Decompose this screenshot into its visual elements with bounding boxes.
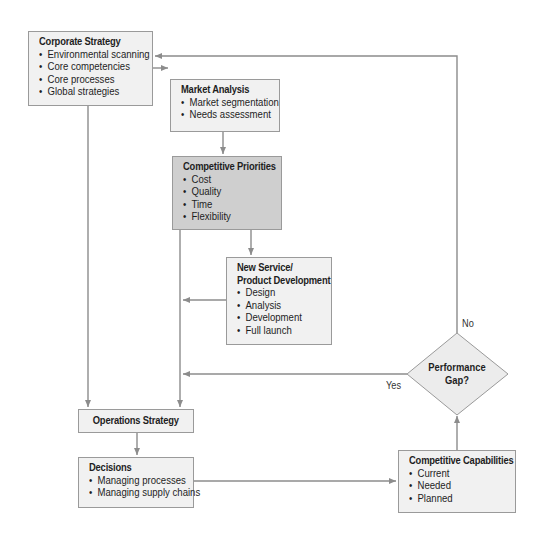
list-item: Global strategies	[39, 86, 139, 99]
list-item: Development	[237, 312, 319, 325]
new-service-box: New Service/ Product Development Design …	[226, 257, 332, 345]
list-item: Analysis	[237, 300, 319, 313]
competitive-capabilities-box: Competitive Capabilities Current Needed …	[398, 450, 516, 513]
list-item: Cost	[183, 174, 269, 187]
list-item: Quality	[183, 186, 269, 199]
list-item: Current	[409, 468, 502, 481]
corporate-strategy-box: Corporate Strategy Environmental scannin…	[28, 31, 153, 106]
new-service-title-line1: New Service/	[237, 262, 317, 275]
list-item: Environmental scanning	[39, 49, 139, 62]
competitive-priorities-title: Competitive Priorities	[183, 161, 267, 174]
competitive-priorities-list: Cost Quality Time Flexibility	[183, 174, 274, 224]
list-item: Managing supply chains	[89, 487, 180, 500]
list-item: Full launch	[237, 325, 319, 338]
decisions-title: Decisions	[89, 462, 178, 475]
performance-gap-line1: Performance	[420, 361, 494, 374]
corporate-strategy-list: Environmental scanning Core competencies…	[39, 49, 145, 99]
no-label: No	[462, 318, 474, 329]
decisions-list: Managing processes Managing supply chain…	[89, 475, 186, 500]
market-analysis-list: Market segmentation Needs assessment	[181, 97, 272, 122]
decisions-box: Decisions Managing processes Managing su…	[78, 457, 194, 508]
competitive-capabilities-list: Current Needed Planned	[409, 468, 508, 506]
market-analysis-title: Market Analysis	[181, 84, 265, 97]
new-service-title-line2: Product Development	[237, 275, 317, 288]
list-item: Flexibility	[183, 211, 269, 224]
list-item: Time	[183, 199, 269, 212]
performance-gap-line2: Gap?	[420, 374, 494, 387]
market-analysis-box: Market Analysis Market segmentation Need…	[170, 79, 280, 132]
competitive-priorities-box: Competitive Priorities Cost Quality Time…	[172, 156, 282, 230]
yes-label: Yes	[386, 380, 401, 391]
list-item: Market segmentation	[181, 97, 267, 110]
performance-gap-label: Performance Gap?	[420, 361, 494, 387]
list-item: Planned	[409, 493, 502, 506]
new-service-list: Design Analysis Development Full launch	[237, 287, 324, 337]
list-item: Needed	[409, 480, 502, 493]
operations-strategy-title: Operations Strategy	[93, 415, 179, 428]
list-item: Core competencies	[39, 61, 139, 74]
competitive-capabilities-title: Competitive Capabilities	[409, 455, 500, 468]
list-item: Managing processes	[89, 475, 180, 488]
operations-strategy-box: Operations Strategy	[78, 409, 194, 433]
list-item: Core processes	[39, 74, 139, 87]
corporate-strategy-title: Corporate Strategy	[39, 36, 137, 49]
list-item: Design	[237, 287, 319, 300]
list-item: Needs assessment	[181, 109, 267, 122]
